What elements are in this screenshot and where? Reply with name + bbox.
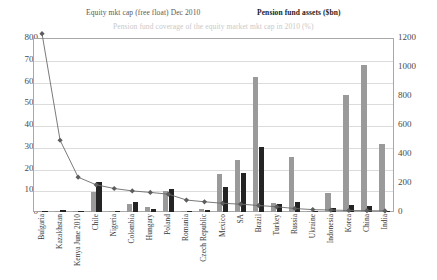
- x-tick-label: Korea: [345, 214, 353, 232]
- x-tick-label: Brazil: [255, 214, 263, 232]
- coverage-marker: [310, 207, 315, 212]
- legend-item-pension-coverage: Pension fund coverage of the equity mark…: [113, 22, 314, 31]
- y-tick-right: 1200: [398, 33, 428, 42]
- coverage-marker: [292, 206, 297, 211]
- chart-container: Equity mkt cap (free float) Dec 2010 Pen…: [0, 0, 437, 280]
- coverage-marker: [364, 208, 369, 213]
- x-tick-label: Poland: [164, 214, 172, 235]
- coverage-marker: [184, 197, 189, 202]
- x-tick-label: Indonesia: [327, 214, 335, 243]
- x-tick-label: Czech Republic: [200, 214, 208, 262]
- coverage-marker: [148, 190, 153, 195]
- x-tick-label: Mexico: [219, 214, 227, 237]
- coverage-marker: [57, 138, 62, 143]
- coverage-marker: [202, 199, 207, 204]
- y-tick-right: 400: [398, 149, 428, 158]
- coverage-marker: [166, 192, 171, 197]
- x-tick-label: Nigeria: [110, 214, 118, 237]
- coverage-marker: [112, 186, 117, 191]
- x-tick-label: Kenya June 2010: [74, 214, 82, 266]
- x-tick-label: Romania: [182, 214, 190, 241]
- coverage-marker: [130, 188, 135, 193]
- legend-item-equity-mkt-cap: Equity mkt cap (free float) Dec 2010: [86, 8, 200, 17]
- coverage-marker: [76, 175, 81, 180]
- x-axis-labels: BulgariaKazakhstanKenya June 2010ChileNi…: [33, 214, 394, 280]
- y-tick-right: 0: [398, 207, 428, 216]
- coverage-marker: [274, 204, 279, 209]
- coverage-marker: [256, 203, 261, 208]
- x-tick-label: Turkey: [273, 214, 281, 235]
- legend-item-pension-fund-assets: Pension fund assets ($bn): [257, 8, 341, 17]
- y-tick-right: 800: [398, 91, 428, 100]
- coverage-marker: [220, 201, 225, 206]
- x-tick-label: Ukraine: [309, 214, 317, 238]
- x-tick-label: India: [381, 214, 389, 229]
- x-tick-label: China: [363, 214, 371, 232]
- coverage-marker: [382, 208, 387, 213]
- x-tick-label: Hungary: [146, 214, 154, 240]
- coverage-line: [42, 34, 385, 211]
- x-tick-label: SA: [237, 214, 245, 224]
- coverage-marker: [238, 202, 243, 207]
- x-tick-label: Colombia: [128, 214, 136, 244]
- coverage-marker: [328, 207, 333, 212]
- line-series-layer: [33, 38, 394, 212]
- coverage-marker: [94, 182, 99, 187]
- coverage-marker: [346, 208, 351, 213]
- x-tick-label: Russia: [291, 214, 299, 234]
- x-tick-label: Kazakhstan: [56, 214, 64, 249]
- x-tick-label: Bulgaria: [38, 214, 46, 240]
- x-tick-label: Chile: [92, 214, 100, 230]
- y-tick-right: 200: [398, 178, 428, 187]
- chart-legend: Equity mkt cap (free float) Dec 2010 Pen…: [0, 0, 437, 34]
- y-tick-right: 600: [398, 120, 428, 129]
- y-tick-right: 1000: [398, 62, 428, 71]
